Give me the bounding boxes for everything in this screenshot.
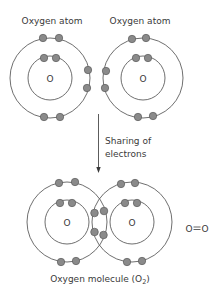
electron bbox=[56, 199, 63, 206]
electron bbox=[123, 258, 130, 265]
right-nucleus-label: O bbox=[128, 218, 135, 228]
electron bbox=[131, 179, 138, 186]
electron bbox=[57, 258, 64, 265]
electron bbox=[52, 54, 59, 61]
electron bbox=[71, 178, 78, 185]
electron bbox=[84, 66, 91, 73]
electron bbox=[40, 54, 47, 61]
nucleus-label: O bbox=[46, 74, 53, 84]
electron bbox=[142, 34, 149, 41]
shared-electron bbox=[91, 228, 99, 236]
electron bbox=[121, 199, 128, 206]
electron bbox=[101, 84, 108, 91]
electron bbox=[132, 54, 139, 61]
shared-electron bbox=[100, 207, 108, 215]
molecule-caption: Oxygen molecule (O2) bbox=[50, 274, 150, 286]
electron bbox=[128, 35, 135, 42]
electron bbox=[68, 199, 75, 206]
arrow-label-line2: electrons bbox=[105, 149, 147, 159]
electron bbox=[39, 34, 46, 41]
electron bbox=[83, 84, 90, 91]
arrow-label-line1: Sharing of bbox=[105, 136, 152, 146]
electron bbox=[134, 113, 141, 120]
nucleus-label: O bbox=[139, 74, 146, 84]
arrow-head-icon bbox=[96, 167, 100, 173]
electron bbox=[144, 54, 151, 61]
electron bbox=[40, 113, 47, 120]
electron bbox=[149, 112, 156, 119]
shared-electron bbox=[91, 209, 99, 217]
right-atom-label: Oxygen atom bbox=[110, 16, 171, 26]
formula-right-o: O bbox=[201, 224, 208, 234]
right-oxygen-atom: Oxygen atom O bbox=[101, 16, 183, 121]
left-atom-label: Oxygen atom bbox=[22, 16, 83, 26]
electron bbox=[117, 180, 124, 187]
left-nucleus-label: O bbox=[63, 218, 70, 228]
left-oxygen-atom: Oxygen atom O bbox=[10, 16, 92, 121]
shared-electron bbox=[100, 231, 108, 239]
electron bbox=[133, 199, 140, 206]
formula-left-o: O bbox=[185, 224, 192, 234]
electron bbox=[102, 67, 109, 74]
electron bbox=[138, 257, 145, 264]
electron bbox=[55, 34, 62, 41]
shared-electron-pairs bbox=[91, 207, 108, 239]
electron bbox=[72, 257, 79, 264]
structural-formula: O O bbox=[185, 224, 208, 234]
oxygen-bonding-diagram: Oxygen atom O Oxygen atom O bbox=[0, 0, 221, 301]
oxygen-molecule: O O O O Oxyge bbox=[27, 178, 209, 286]
electron bbox=[56, 113, 63, 120]
sharing-arrow: Sharing of electrons bbox=[96, 114, 152, 173]
electron bbox=[55, 179, 62, 186]
